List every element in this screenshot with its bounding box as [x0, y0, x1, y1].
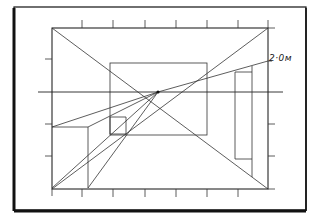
picture-frame	[14, 7, 306, 211]
vanishing-point	[156, 90, 159, 93]
perspective-drawing	[0, 0, 317, 220]
left-box	[52, 92, 158, 188]
height-ray	[158, 61, 268, 92]
height-label: 2·0м	[269, 53, 292, 63]
back-wall-rectangle	[110, 63, 207, 135]
corner-diagonals	[52, 28, 268, 189]
right-doorway	[235, 66, 252, 177]
